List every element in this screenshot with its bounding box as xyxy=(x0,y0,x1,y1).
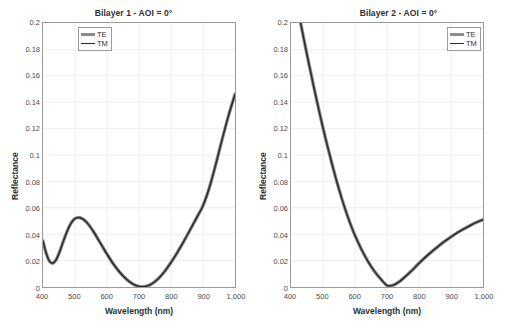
data-curves xyxy=(291,23,483,287)
y-tick-label: 0.12 xyxy=(250,124,288,133)
legend-entry-tm[interactable]: TM xyxy=(81,39,108,48)
plot-area xyxy=(42,22,236,288)
x-axis-label: Wavelength (nm) xyxy=(290,306,484,316)
x-tick-label: 500 xyxy=(316,292,329,301)
top-crop-margin xyxy=(0,0,510,7)
x-tick-label: 900 xyxy=(197,292,210,301)
y-tick-label: 0.2 xyxy=(2,18,40,27)
y-tick-label: 0.12 xyxy=(2,124,40,133)
x-axis-label: Wavelength (nm) xyxy=(42,306,236,316)
x-tick-label: 800 xyxy=(165,292,178,301)
x-tick-label: 1,000 xyxy=(475,292,494,301)
legend-label-tm: TM xyxy=(97,39,108,48)
legend-line-tm-icon xyxy=(81,40,95,47)
x-tick-label: 700 xyxy=(381,292,394,301)
y-tick-label: 0.1 xyxy=(2,151,40,160)
y-axis-label: Reflectance xyxy=(10,152,20,200)
legend-entry-tm[interactable]: TM xyxy=(450,39,477,48)
x-tick-label: 600 xyxy=(348,292,361,301)
legend-label-te: TE xyxy=(466,30,476,39)
y-tick-label: 0.16 xyxy=(2,71,40,80)
x-axis-tick-labels: 4005006007008009001,000 xyxy=(42,292,236,306)
y-tick-label: 0.18 xyxy=(2,44,40,53)
x-tick-label: 500 xyxy=(68,292,81,301)
legend-label-te: TE xyxy=(97,30,107,39)
legend-entry-te[interactable]: TE xyxy=(81,30,108,39)
y-axis-tick-labels: 00.020.040.060.080.10.120.140.160.180.2 xyxy=(0,22,40,288)
y-axis-label: Reflectance xyxy=(258,152,268,200)
x-tick-label: 600 xyxy=(100,292,113,301)
legend-entry-te[interactable]: TE xyxy=(450,30,477,39)
x-tick-label: 1,000 xyxy=(227,292,246,301)
x-tick-label: 900 xyxy=(445,292,458,301)
x-tick-label: 400 xyxy=(284,292,297,301)
y-tick-label: 0 xyxy=(250,284,288,293)
x-tick-label: 800 xyxy=(413,292,426,301)
y-tick-label: 0 xyxy=(2,284,40,293)
chart-title: Bilayer 2 - AOI = 0° xyxy=(271,8,510,18)
y-tick-label: 0.04 xyxy=(250,230,288,239)
legend-line-tm-icon xyxy=(450,40,464,47)
y-tick-label: 0.18 xyxy=(250,44,288,53)
y-tick-label: 0.04 xyxy=(2,230,40,239)
chart-panel-bilayer-1: Bilayer 1 - AOI = 0° 00.020.040.060.080.… xyxy=(0,0,255,330)
legend[interactable]: TE TM xyxy=(78,27,112,51)
chart-title: Bilayer 1 - AOI = 0° xyxy=(6,8,261,18)
plot-area xyxy=(290,22,484,288)
x-axis-tick-labels: 4005006007008009001,000 xyxy=(290,292,484,306)
y-tick-label: 0.06 xyxy=(250,204,288,213)
y-tick-label: 0.02 xyxy=(250,257,288,266)
x-tick-label: 700 xyxy=(133,292,146,301)
legend-line-te-icon xyxy=(450,31,464,38)
legend[interactable]: TE TM xyxy=(447,27,481,51)
y-tick-label: 0.08 xyxy=(2,177,40,186)
legend-line-te-icon xyxy=(81,31,95,38)
y-tick-label: 0.14 xyxy=(2,97,40,106)
legend-label-tm: TM xyxy=(466,39,477,48)
y-tick-label: 0.06 xyxy=(2,204,40,213)
y-tick-label: 0.08 xyxy=(250,177,288,186)
y-tick-label: 0.14 xyxy=(250,97,288,106)
y-tick-label: 0.16 xyxy=(250,71,288,80)
figure-canvas: Bilayer 1 - AOI = 0° 00.020.040.060.080.… xyxy=(0,0,510,330)
y-axis-tick-labels: 00.020.040.060.080.10.120.140.160.180.2 xyxy=(248,22,288,288)
chart-panel-bilayer-2: Bilayer 2 - AOI = 0° 00.020.040.060.080.… xyxy=(255,0,510,330)
y-tick-label: 0.1 xyxy=(250,151,288,160)
y-tick-label: 0.2 xyxy=(250,18,288,27)
x-tick-label: 400 xyxy=(36,292,49,301)
data-curves xyxy=(43,23,235,287)
y-tick-label: 0.02 xyxy=(2,257,40,266)
